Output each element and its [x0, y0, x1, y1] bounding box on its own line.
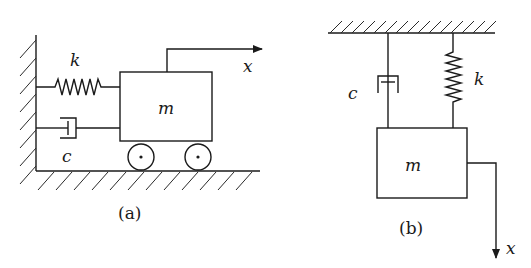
mass-label-m: m — [158, 98, 174, 118]
displacement-label-x: x — [243, 56, 253, 76]
wheel-left — [128, 144, 154, 170]
spring-k — [446, 33, 461, 128]
spring-label-k: k — [474, 69, 484, 89]
damper-label-c: c — [348, 83, 358, 103]
spring-k — [36, 79, 120, 95]
damper-label-c: c — [62, 146, 72, 166]
spring-label-k: k — [70, 50, 80, 70]
panel-a: k c m x (a) — [20, 35, 262, 223]
mass-block — [377, 128, 467, 198]
panel-caption-a: (a) — [118, 203, 141, 223]
panel-caption-b: (b) — [399, 218, 423, 238]
displacement-label-x: x — [506, 238, 516, 258]
damper-c — [378, 33, 398, 128]
wheel-right — [185, 144, 211, 170]
displacement-arrow-down-icon — [467, 163, 496, 258]
panel-b: c k m x (b) — [328, 21, 516, 258]
mass-label-m: m — [405, 155, 421, 175]
mass-spring-damper-figure: k c m x (a) — [0, 0, 531, 268]
fixed-ceiling — [328, 21, 496, 33]
fixed-wall — [20, 35, 36, 184]
damper-c — [36, 118, 120, 138]
ground — [36, 171, 260, 190]
